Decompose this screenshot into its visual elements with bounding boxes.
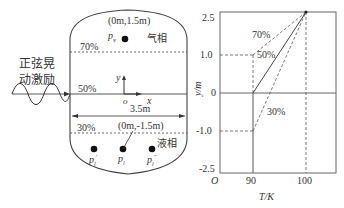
liquid-phase-label: 液相 [157,139,177,149]
tank-width-label: 3.5m [130,104,150,114]
width-arrow-left [72,114,78,118]
diagram-canvas [0,0,344,208]
gas-point-label: pv [108,31,116,44]
excitation-label-line1: 正弦晃 [19,58,55,70]
chart-apex-point [304,10,307,13]
excitation-label-line2: 动激励 [19,74,55,86]
level-70-label: 70% [80,42,98,52]
liquid-coord-leader [123,131,133,149]
chart-ylabel: y/m [193,82,203,96]
gas-point-coord: (0m,1.5m) [108,16,150,26]
tank-x-arrowhead [136,92,142,96]
gas-probe-point [122,36,129,43]
series-label-50: 50% [257,50,275,60]
ytick-1.0: 1.0 [200,50,213,60]
liquid-point-center-label: pl [118,154,125,166]
width-arrow-right [179,114,185,118]
liquid-probe-left [91,146,98,153]
gas-phase-label: 气相 [147,34,167,44]
chart-xlabel: T/K [259,192,274,202]
level-30-label: 30% [77,123,95,133]
liquid-point-right-label: pl'' [147,154,156,167]
level-50-label: 50% [78,84,96,94]
tank-y-arrowhead [122,75,126,80]
xtick-90: 90 [246,176,256,186]
liquid-point-coord: (0m,-1.5m) [118,121,164,131]
chart-origin-label: O [211,176,218,186]
ytick-0: 0 [211,88,216,98]
liquid-probe-right [149,146,156,153]
ytick-2.5: 2.5 [202,13,215,23]
series-label-70: 70% [252,30,270,40]
liquid-point-left-label: pl' [89,154,97,167]
ytick-neg2.5: -2.5 [199,164,215,174]
xtick-100: 100 [297,176,312,186]
tank-origin-label: o [123,97,128,106]
series-label-30: 30% [267,107,285,117]
ytick-neg1.0: -1.0 [196,126,212,136]
tank-y-axis-label: y [116,73,120,83]
